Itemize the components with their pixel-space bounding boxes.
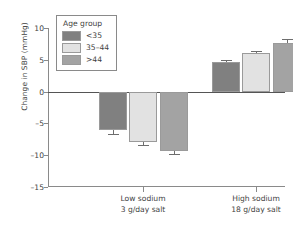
- legend-label: <35: [86, 31, 102, 40]
- legend-items: <3535–44>44: [62, 30, 109, 65]
- error-bar-cap: [282, 39, 293, 40]
- bar: [273, 43, 294, 92]
- chart-container: Change in SBP (mmHg) 1050–5–10–15 Low so…: [0, 0, 293, 228]
- legend-swatch: [62, 43, 81, 53]
- legend-title: Age group: [63, 19, 109, 28]
- legend: Age group <3535–44>44: [56, 15, 117, 71]
- error-bar-cap: [108, 134, 119, 135]
- legend-label: >44: [86, 55, 102, 64]
- y-tick-label: –10: [31, 151, 44, 160]
- x-group-label-line1: High sodium: [231, 194, 281, 205]
- legend-item-0[interactable]: <35: [62, 30, 109, 41]
- error-bar-cap: [138, 145, 149, 146]
- y-tick-label: 10: [34, 24, 44, 33]
- y-tick-label: 5: [39, 55, 44, 64]
- x-group-label-line2: 3 g/day salt: [120, 205, 165, 216]
- x-group-tick-1: [256, 187, 257, 192]
- bar: [99, 92, 127, 131]
- y-tick-mark: [44, 60, 48, 61]
- legend-swatch: [62, 55, 81, 65]
- y-tick-label: –15: [31, 183, 44, 192]
- x-group-tick-0: [143, 187, 144, 192]
- y-axis-title: Change in SBP (mmHg): [20, 0, 29, 147]
- error-bar-cap: [251, 51, 262, 52]
- legend-label: 35–44: [86, 43, 109, 52]
- y-tick-mark: [44, 123, 48, 124]
- y-tick-mark: [44, 92, 48, 93]
- x-group-label-line2: 18 g/day salt: [231, 205, 281, 216]
- legend-item-2[interactable]: >44: [62, 54, 109, 65]
- x-group-label-1: High sodium18 g/day salt: [231, 194, 281, 215]
- y-tick-mark: [44, 155, 48, 156]
- x-axis-bottom-line: [48, 186, 285, 187]
- legend-item-1[interactable]: 35–44: [62, 42, 109, 53]
- bar: [212, 62, 240, 91]
- x-group-label-0: Low sodium3 g/day salt: [120, 194, 165, 215]
- x-group-label-line1: Low sodium: [120, 194, 165, 205]
- bar: [129, 92, 157, 143]
- y-tick-mark: [44, 187, 48, 188]
- y-tick-label: 0: [39, 87, 44, 96]
- y-tick-label: –5: [35, 119, 44, 128]
- bar: [242, 53, 270, 91]
- bar: [160, 92, 188, 151]
- legend-swatch: [62, 31, 81, 41]
- error-bar-cap: [221, 60, 232, 61]
- y-tick-mark: [44, 28, 48, 29]
- error-bar-cap: [169, 154, 180, 155]
- y-axis-line: [48, 28, 49, 187]
